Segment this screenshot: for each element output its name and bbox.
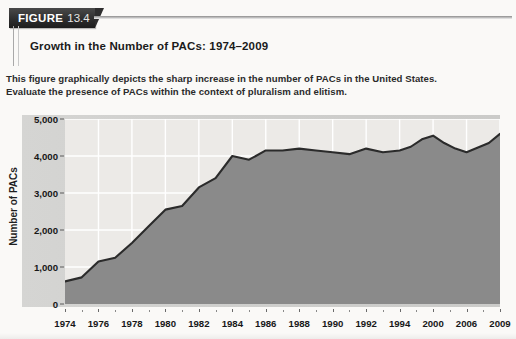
x-tick-mark-minor [450, 310, 451, 312]
y-tick-mark [60, 119, 64, 120]
y-tick-mark [60, 230, 64, 231]
x-tick-mark [500, 309, 501, 312]
header-side-rule [13, 26, 19, 66]
x-tick-label: 1990 [322, 318, 343, 329]
y-tick-label: 1,000 [34, 262, 58, 273]
figure-description-line-1: This figure graphically depicts the shar… [6, 73, 508, 86]
x-tick-label: 1976 [88, 318, 109, 329]
figure-tag-label: FIGURE [18, 12, 63, 24]
x-tick-mark-minor [216, 310, 217, 312]
figure-tag: FIGURE 13.4 [9, 8, 95, 28]
figure-tag-number: 13.4 [67, 12, 89, 24]
figure-title: Growth in the Number of PACs: 1974–2009 [30, 40, 268, 52]
x-tick-label: 1984 [222, 318, 243, 329]
area-chart-svg [65, 119, 500, 304]
y-tick-mark [60, 193, 64, 194]
area-series-fill [65, 134, 500, 304]
header-rule [94, 16, 512, 19]
x-tick-label: 2000 [422, 318, 443, 329]
y-axis-ticks: 01,0002,0003,0004,0005,000 [0, 113, 58, 310]
x-tick-mark [333, 309, 334, 312]
x-tick-label: 2006 [456, 318, 477, 329]
x-tick-mark-minor [149, 310, 150, 312]
y-tick-mark [60, 304, 64, 305]
y-tick-mark [60, 156, 64, 157]
y-tick-label: 5,000 [34, 114, 58, 125]
x-tick-mark-minor [349, 310, 350, 312]
chart: Number of PACs 01,0002,0003,0004,0005,00… [0, 113, 516, 339]
x-tick-mark-minor [283, 310, 284, 312]
page-bottom-shadow [0, 333, 516, 339]
x-tick-mark [65, 309, 66, 312]
y-tick-label: 0 [53, 299, 58, 310]
x-tick-mark [299, 309, 300, 312]
x-tick-mark-minor [383, 310, 384, 312]
x-tick-mark [132, 309, 133, 312]
x-tick-label: 1974 [54, 318, 75, 329]
x-tick-label: 1982 [188, 318, 209, 329]
y-tick-label: 4,000 [34, 151, 58, 162]
x-tick-mark [400, 309, 401, 312]
x-tick-label: 1992 [355, 318, 376, 329]
figure-page: FIGURE 13.4 Growth in the Number of PACs… [0, 0, 516, 339]
x-tick-mark-minor [416, 310, 417, 312]
x-tick-mark-minor [82, 310, 83, 312]
x-tick-mark-minor [115, 310, 116, 312]
y-tick-label: 2,000 [34, 225, 58, 236]
y-tick-mark [60, 267, 64, 268]
figure-description: This figure graphically depicts the shar… [6, 73, 508, 98]
x-tick-label: 1986 [255, 318, 276, 329]
x-tick-label: 2009 [489, 318, 510, 329]
plot-area [65, 119, 500, 304]
x-tick-mark [165, 309, 166, 312]
x-tick-mark [199, 309, 200, 312]
x-tick-label: 1978 [121, 318, 142, 329]
figure-description-line-2: Evaluate the presence of PACs within the… [6, 86, 508, 99]
y-tick-label: 3,000 [34, 188, 58, 199]
x-tick-mark [232, 309, 233, 312]
x-tick-mark [366, 309, 367, 312]
x-tick-label: 1988 [289, 318, 310, 329]
x-tick-mark-minor [249, 310, 250, 312]
x-tick-mark [467, 309, 468, 312]
x-tick-mark-minor [483, 310, 484, 312]
x-tick-mark [266, 309, 267, 312]
x-tick-label: 1980 [155, 318, 176, 329]
x-tick-label: 1994 [389, 318, 410, 329]
x-tick-mark [98, 309, 99, 312]
x-tick-mark-minor [316, 310, 317, 312]
x-tick-mark [433, 309, 434, 312]
x-tick-mark-minor [182, 310, 183, 312]
